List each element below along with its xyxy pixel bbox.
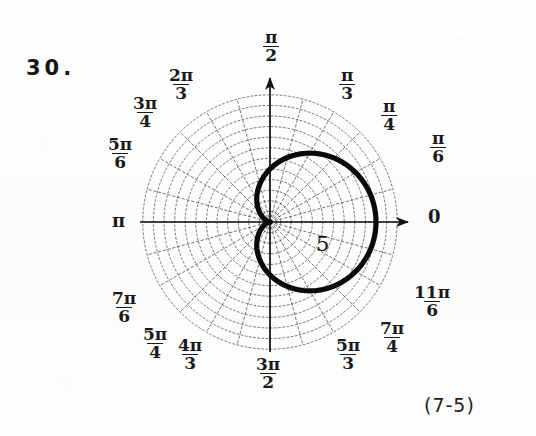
grid-spoke-315deg bbox=[270, 222, 360, 312]
angle-label-numerator: 2π bbox=[167, 67, 195, 84]
angle-label-denominator: 3 bbox=[182, 354, 198, 372]
angle-label-pi-over-6: π6 bbox=[430, 130, 446, 166]
angle-label-numerator: 5π bbox=[106, 136, 134, 153]
angle-label-denominator: 3 bbox=[340, 354, 356, 372]
angle-label-denominator: 4 bbox=[137, 112, 153, 130]
angle-label-numerator: 11π bbox=[412, 284, 452, 301]
figure-canvas: 30. 5 0 π6π4π3π22π33π45π6π7π65π44π33π25π… bbox=[0, 0, 536, 436]
angle-label-pi-over-2: π2 bbox=[263, 29, 279, 65]
angle-label-five-pi-over-6: 5π6 bbox=[106, 136, 134, 172]
angle-label-numerator: π bbox=[430, 130, 446, 147]
angle-label-denominator: 6 bbox=[424, 301, 440, 319]
angle-label-numerator: 5π bbox=[141, 326, 169, 343]
angle-label-seven-pi-over-6: 7π6 bbox=[110, 290, 138, 326]
angle-label-numerator: 3π bbox=[254, 356, 282, 373]
angle-label-pi-over-3: π3 bbox=[339, 67, 355, 103]
angle-label-numerator: 7π bbox=[110, 290, 138, 307]
angle-label-numerator: π bbox=[381, 98, 397, 115]
angle-label-pi: π bbox=[112, 212, 125, 230]
angle-label-denominator: 3 bbox=[173, 84, 189, 102]
polar-axis-zero-label: 0 bbox=[428, 208, 441, 226]
angle-label-three-pi-over-4: 3π4 bbox=[131, 95, 159, 131]
angle-label-numerator: 7π bbox=[378, 320, 406, 337]
angle-label-denominator: 3 bbox=[339, 84, 355, 102]
angle-label-denominator: 4 bbox=[147, 343, 163, 361]
angle-label-numerator: 3π bbox=[131, 95, 159, 112]
angle-label-denominator: 6 bbox=[430, 147, 446, 165]
angle-label-denominator: 4 bbox=[384, 337, 400, 355]
angle-label-denominator: 2 bbox=[260, 373, 276, 391]
figure-reference: (7-5) bbox=[424, 394, 475, 416]
angle-label-three-pi-over-2: 3π2 bbox=[254, 356, 282, 392]
angle-label-two-pi-over-3: 2π3 bbox=[167, 67, 195, 103]
angle-label-pi-over-4: π4 bbox=[381, 98, 397, 134]
radius-scale-marker: 5 bbox=[316, 232, 329, 256]
angle-label-numerator: π bbox=[263, 29, 279, 46]
angle-label-five-pi-over-4: 5π4 bbox=[141, 326, 169, 362]
angle-label-denominator: 6 bbox=[112, 153, 128, 171]
angle-label-denominator: 6 bbox=[116, 307, 132, 325]
angle-label-numerator: π bbox=[339, 67, 355, 84]
angle-label-denominator: 4 bbox=[381, 115, 397, 133]
angle-label-eleven-pi-over-6: 11π6 bbox=[412, 284, 452, 320]
problem-number: 30. bbox=[26, 56, 75, 80]
angle-label-numerator: 4π bbox=[176, 337, 204, 354]
grid-spoke-240deg bbox=[206, 222, 270, 332]
angle-label-seven-pi-over-4: 7π4 bbox=[378, 320, 406, 356]
angle-label-five-pi-over-3: 5π3 bbox=[334, 337, 362, 373]
angle-label-denominator: 2 bbox=[263, 46, 279, 64]
angle-label-four-pi-over-3: 4π3 bbox=[176, 337, 204, 373]
angle-label-numerator: 5π bbox=[334, 337, 362, 354]
